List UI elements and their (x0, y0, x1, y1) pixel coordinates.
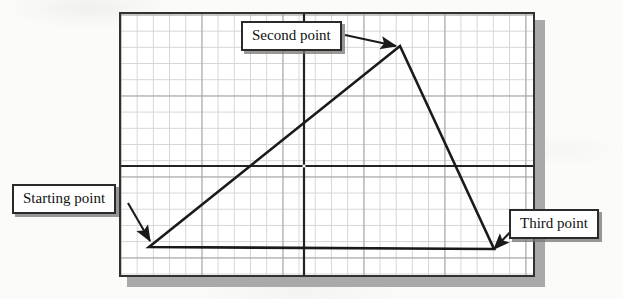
origin-marker (302, 164, 305, 167)
triangle-shape (149, 46, 494, 249)
plot-drawing (121, 14, 535, 277)
plot-panel (119, 12, 535, 277)
figure-canvas: Second point Starting point Third point (0, 0, 623, 299)
callout-third-point: Third point (509, 209, 599, 239)
callout-starting-point: Starting point (12, 184, 116, 214)
callout-second-point: Second point (241, 21, 342, 51)
